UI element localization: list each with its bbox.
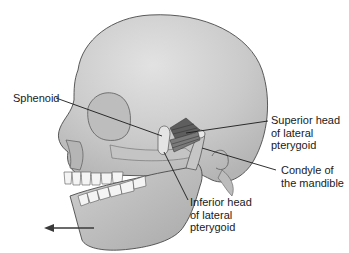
sphenoid-plate [158, 126, 170, 155]
label-condyle-of-mandible: Condyle of the mandible [281, 164, 344, 189]
label-superior-head-lateral-pterygoid: Superior head of lateral pterygoid [271, 114, 340, 152]
label-inferior-head-lateral-pterygoid: Inferior head of lateral pterygoid [190, 196, 252, 234]
skull-diagram: Sphenoid Superior head of lateral pteryg… [0, 0, 349, 253]
label-sphenoid: Sphenoid [13, 92, 60, 105]
arrow-left-icon [44, 224, 54, 232]
